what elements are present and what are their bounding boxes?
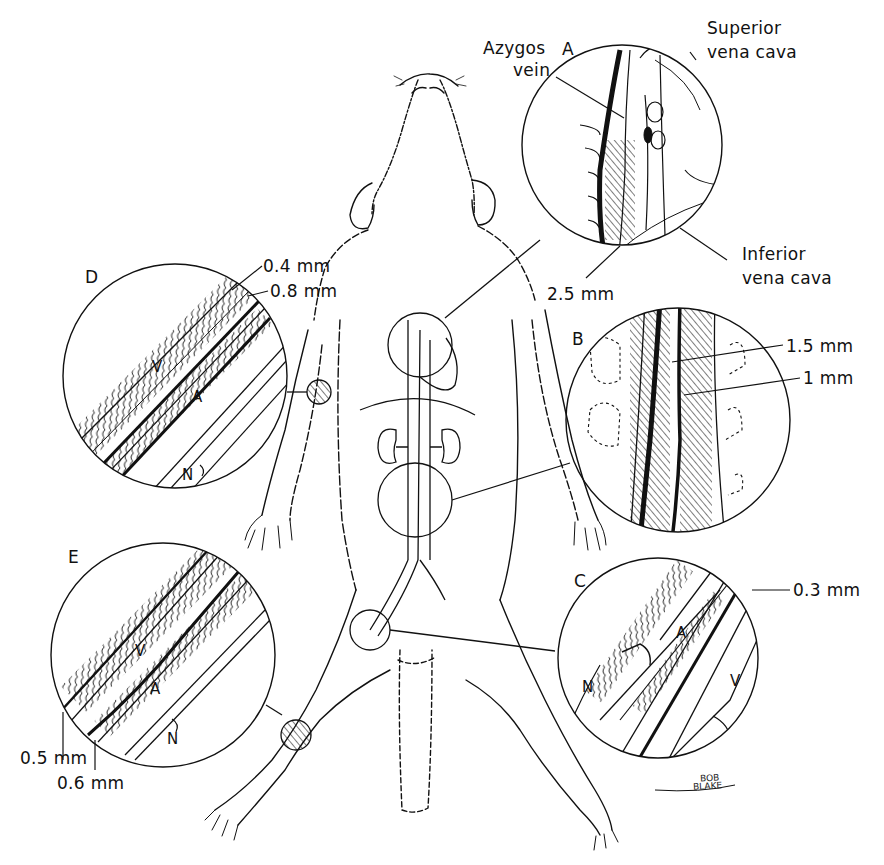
- internal-organs: [281, 313, 475, 750]
- label-e-vein: V: [135, 642, 145, 660]
- inset-e-letter: E: [68, 548, 79, 566]
- label-e-0-5mm: 0.5 mm: [20, 748, 87, 768]
- signature-line2: BLAKE: [693, 781, 723, 791]
- label-d-0-8mm: 0.8 mm: [270, 281, 337, 301]
- inset-e: [60, 524, 270, 760]
- label-b-1-5mm: 1.5 mm: [786, 336, 853, 356]
- label-c-vein: V: [730, 672, 740, 690]
- inset-d-letter: D: [85, 268, 98, 286]
- label-a-2-5mm: 2.5 mm: [547, 284, 614, 304]
- label-azygos-vein: vein: [513, 60, 550, 80]
- label-superior-vena-cava: vena cava: [707, 42, 797, 62]
- label-d-nerve: N: [182, 466, 193, 484]
- inset-a-letter: A: [562, 40, 574, 58]
- label-c-0-3mm: 0.3 mm: [793, 580, 860, 600]
- label-d-vein: V: [152, 358, 162, 376]
- label-d-artery: A: [192, 388, 202, 406]
- label-b-1mm: 1 mm: [803, 368, 854, 388]
- label-azygos: Azygos: [483, 38, 545, 58]
- illustration-canvas: [0, 0, 884, 865]
- label-inferior-vena-cava: vena cava: [742, 268, 832, 288]
- label-inferior: Inferior: [742, 244, 806, 264]
- rat-body: [205, 74, 618, 850]
- leader-lines: [266, 240, 570, 715]
- label-e-artery: A: [150, 680, 160, 698]
- label-c-artery: A: [676, 624, 686, 642]
- inset-b-letter: B: [572, 330, 584, 348]
- label-superior: Superior: [707, 18, 781, 38]
- inset-a: [580, 44, 760, 290]
- label-e-0-6mm: 0.6 mm: [57, 773, 124, 793]
- label-d-0-4mm: 0.4 mm: [263, 256, 330, 276]
- inset-c: [570, 555, 775, 800]
- label-e-nerve: N: [167, 730, 178, 748]
- inset-c-letter: C: [574, 572, 586, 590]
- label-c-nerve: N: [582, 678, 593, 696]
- inset-b: [588, 300, 745, 540]
